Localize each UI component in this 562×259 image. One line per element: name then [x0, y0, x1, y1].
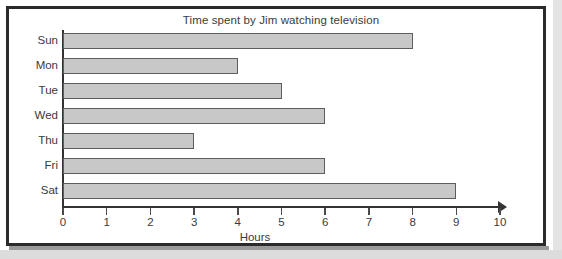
bar-mon	[63, 58, 238, 74]
x-tick-10	[499, 208, 501, 215]
x-tick-0	[62, 208, 64, 215]
x-tick-label-2: 2	[135, 216, 165, 228]
bar-fri	[63, 158, 325, 174]
x-tick-label-9: 9	[441, 216, 471, 228]
x-tick-label-4: 4	[223, 216, 253, 228]
plot-area: Time spent by Jim watching television Su…	[0, 0, 562, 259]
category-label-sun: Sun	[10, 34, 58, 46]
x-tick-4	[237, 208, 239, 215]
x-tick-2	[150, 208, 152, 215]
x-tick-label-1: 1	[92, 216, 122, 228]
x-tick-7	[368, 208, 370, 215]
x-tick-3	[193, 208, 195, 215]
x-tick-6	[324, 208, 326, 215]
x-tick-9	[456, 208, 458, 215]
x-tick-label-7: 7	[354, 216, 384, 228]
bar-tue	[63, 83, 282, 99]
category-label-thu: Thu	[10, 134, 58, 146]
x-tick-label-0: 0	[48, 216, 78, 228]
x-tick-label-8: 8	[398, 216, 428, 228]
bar-sun	[63, 33, 413, 49]
bar-sat	[63, 183, 456, 199]
category-label-sat: Sat	[10, 184, 58, 196]
category-label-mon: Mon	[10, 59, 58, 71]
category-label-tue: Tue	[10, 84, 58, 96]
x-tick-1	[106, 208, 108, 215]
x-tick-label-10: 10	[485, 216, 515, 228]
bar-wed	[63, 108, 325, 124]
chart-title: Time spent by Jim watching television	[0, 14, 562, 26]
category-label-fri: Fri	[10, 159, 58, 171]
x-axis-title: Hours	[0, 231, 562, 243]
x-tick-label-5: 5	[267, 216, 297, 228]
figure-container: Time spent by Jim watching television Su…	[0, 0, 562, 259]
x-tick-label-3: 3	[179, 216, 209, 228]
x-tick-8	[412, 208, 414, 215]
x-tick-5	[281, 208, 283, 215]
bar-thu	[63, 133, 194, 149]
x-tick-label-6: 6	[310, 216, 340, 228]
x-axis-title-text: Hours	[240, 231, 271, 243]
category-label-wed: Wed	[10, 109, 58, 121]
